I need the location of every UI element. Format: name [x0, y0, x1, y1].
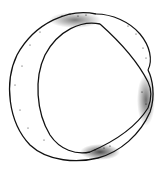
illustration-canvas	[0, 0, 164, 171]
outer-edge	[10, 13, 153, 161]
twisted-band-drawing	[0, 0, 164, 171]
top-right-edge	[96, 14, 150, 70]
stipple-dots	[15, 13, 147, 150]
top-shading	[49, 12, 101, 28]
inner-edge	[38, 23, 100, 153]
